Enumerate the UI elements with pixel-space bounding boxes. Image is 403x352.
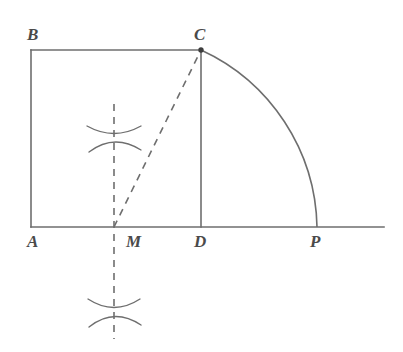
solid-lines-group <box>31 50 384 227</box>
vertex-label-b: B <box>26 25 38 44</box>
geometry-canvas: ABCDMP <box>0 0 403 352</box>
point-marker-c <box>198 47 203 52</box>
vertex-label-a: A <box>26 232 38 251</box>
quarter-arc-C-to-P <box>201 50 317 227</box>
geometry-figure: ABCDMP <box>0 0 403 352</box>
vertex-labels-group: ABCDMP <box>26 25 321 251</box>
vertex-label-c: C <box>194 25 206 44</box>
vertex-label-d: D <box>193 232 206 251</box>
dashed-lines-group <box>114 50 201 339</box>
vertex-label-p: P <box>309 232 321 251</box>
arc-group <box>201 50 317 227</box>
compass-cross-lower-arc-b <box>89 316 141 327</box>
compass-cross-upper-arc-b <box>89 142 141 152</box>
segment-MC <box>114 50 201 227</box>
point-markers-group <box>198 47 203 52</box>
vertex-label-m: M <box>125 232 142 251</box>
